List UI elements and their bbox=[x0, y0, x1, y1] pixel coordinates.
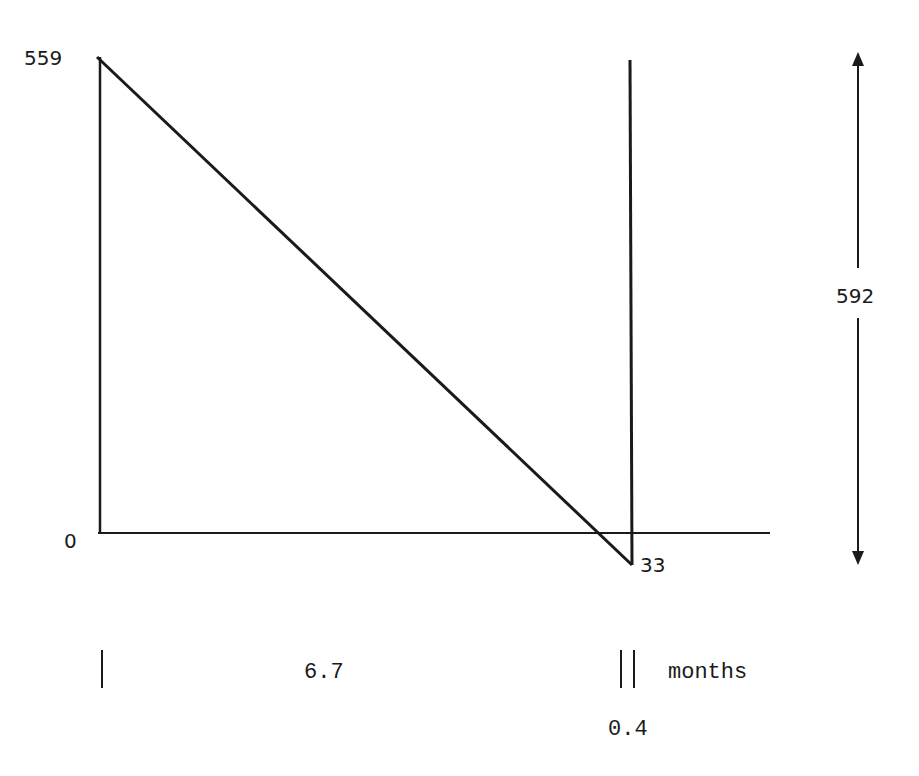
cycle-duration-label: 6.7 bbox=[304, 660, 344, 685]
arrow-up-icon bbox=[852, 52, 864, 66]
zero-label: 0 bbox=[64, 529, 77, 553]
replenishment-line bbox=[630, 60, 632, 565]
trough-label: 33 bbox=[640, 553, 665, 577]
span-label: 592 bbox=[836, 284, 874, 308]
depletion-line bbox=[97, 57, 632, 565]
time-unit-label: months bbox=[668, 660, 747, 685]
lead-time-label: 0.4 bbox=[608, 717, 648, 742]
peak-label: 559 bbox=[24, 46, 62, 70]
inventory-diagram: 559 0 33 592 6.7 months 0.4 bbox=[0, 0, 919, 776]
arrow-down-icon bbox=[852, 551, 864, 565]
